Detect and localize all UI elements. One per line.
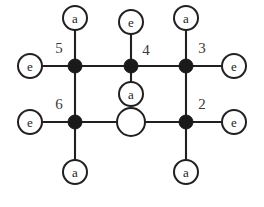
graph-canvas: aeeaaeeaea 54362 bbox=[0, 0, 264, 207]
substituent-label: e bbox=[231, 115, 237, 130]
ring-index-label: 3 bbox=[198, 40, 206, 56]
ring-vertex-v6 bbox=[68, 115, 82, 129]
substituent-node-e: e bbox=[222, 54, 246, 78]
substituent-label: e bbox=[27, 59, 33, 74]
substituent-label: a bbox=[183, 165, 189, 180]
ring-vertex-v1 bbox=[117, 108, 145, 136]
substituent-node-e: e bbox=[119, 10, 143, 34]
substituent-node-a: a bbox=[119, 82, 143, 106]
substituent-node-group: aeeaaeeaea bbox=[18, 6, 246, 184]
substituent-label: a bbox=[72, 165, 78, 180]
substituent-node-e: e bbox=[18, 110, 42, 134]
substituent-label: a bbox=[128, 87, 134, 102]
ring-index-label: 2 bbox=[198, 96, 206, 112]
substituent-label: e bbox=[128, 15, 134, 30]
substituent-node-a: a bbox=[63, 6, 87, 30]
substituent-label: e bbox=[27, 115, 33, 130]
ring-index-label: 4 bbox=[142, 42, 150, 58]
substituent-label: a bbox=[72, 11, 78, 26]
ring-vertex-v4 bbox=[124, 59, 138, 73]
substituent-node-e: e bbox=[18, 54, 42, 78]
ring-index-label: 6 bbox=[55, 96, 63, 112]
substituent-label: a bbox=[183, 11, 189, 26]
ring-vertex-v5 bbox=[68, 59, 82, 73]
substituent-label: e bbox=[231, 59, 237, 74]
substituent-node-a: a bbox=[174, 160, 198, 184]
substituent-node-a: a bbox=[174, 6, 198, 30]
ring-vertex-v2 bbox=[179, 115, 193, 129]
chemical-structure-diagram: aeeaaeeaea 54362 bbox=[0, 0, 264, 207]
ring-index-label: 5 bbox=[55, 40, 63, 56]
substituent-node-a: a bbox=[63, 160, 87, 184]
ring-vertex-v3 bbox=[179, 59, 193, 73]
substituent-node-e: e bbox=[222, 110, 246, 134]
